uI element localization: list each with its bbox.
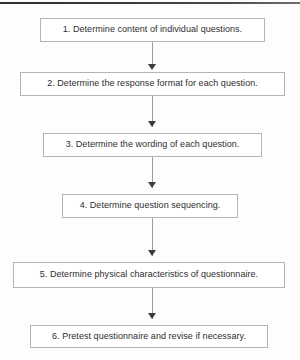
flow-step-label-1: 1. Determine content of individual quest… <box>63 25 242 35</box>
top-divider-rule <box>0 2 300 4</box>
flow-step-box-2: 2. Determine the response format for eac… <box>20 72 285 96</box>
flow-step-label-4: 4. Determine question sequencing. <box>80 201 221 211</box>
flow-step-box-1: 1. Determine content of individual quest… <box>40 18 265 42</box>
flow-step-label-5: 5. Determine physical characteristics of… <box>40 270 258 280</box>
flow-step-label-6: 6. Pretest questionnaire and revise if n… <box>52 332 246 342</box>
arrowhead-4-5 <box>148 250 156 256</box>
connector-1-2 <box>152 42 153 64</box>
flowchart-canvas: 1. Determine content of individual quest… <box>0 0 300 360</box>
flow-step-label-2: 2. Determine the response format for eac… <box>47 79 258 89</box>
flow-step-box-3: 3. Determine the wording of each questio… <box>43 133 262 157</box>
arrowhead-5-6 <box>148 313 156 319</box>
arrowhead-2-3 <box>148 121 156 127</box>
flow-step-box-5: 5. Determine physical characteristics of… <box>13 262 285 288</box>
flow-step-box-6: 6. Pretest questionnaire and revise if n… <box>30 325 268 348</box>
flow-step-box-4: 4. Determine question sequencing. <box>62 194 238 218</box>
flow-step-label-3: 3. Determine the wording of each questio… <box>66 140 240 150</box>
arrowhead-1-2 <box>148 64 156 70</box>
arrowhead-3-4 <box>148 182 156 188</box>
